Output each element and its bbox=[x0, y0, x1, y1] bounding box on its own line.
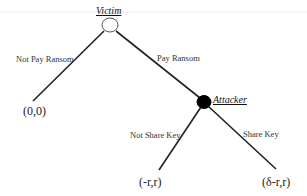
edge-label-not-pay-ransom: Not Pay Ransom bbox=[16, 54, 74, 64]
edge-not-pay-ransom bbox=[33, 31, 104, 101]
victim-label: Victim bbox=[96, 5, 121, 16]
payoff-not-pay: (0,0) bbox=[23, 104, 46, 119]
game-tree-canvas bbox=[0, 0, 307, 196]
edge-label-pay-ransom: Pay Ransom bbox=[157, 53, 200, 63]
attacker-label: Attacker bbox=[213, 94, 247, 105]
edge-label-not-share-key: Not Share Key bbox=[130, 130, 181, 140]
edge-label-share-key: Share Key bbox=[243, 129, 279, 139]
payoff-not-share: (-r,r) bbox=[139, 175, 162, 190]
payoff-share: (δ-r,r) bbox=[262, 175, 290, 190]
attacker-node bbox=[197, 96, 211, 109]
victim-node bbox=[102, 18, 118, 32]
edge-pay-ransom bbox=[116, 31, 200, 98]
